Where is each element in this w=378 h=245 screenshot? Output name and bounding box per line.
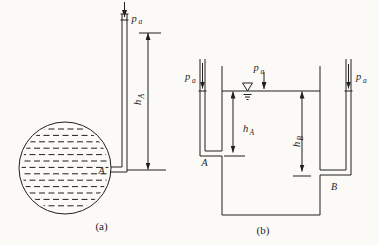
svg-text:B: B xyxy=(296,136,305,141)
point-B-label-b: B xyxy=(331,181,337,192)
svg-text:a: a xyxy=(139,17,143,26)
svg-text:p: p xyxy=(184,71,190,82)
svg-text:p: p xyxy=(253,62,259,73)
svg-text:a: a xyxy=(363,76,367,85)
caption-b: (b) xyxy=(257,224,270,237)
svg-text:a: a xyxy=(261,67,265,76)
svg-text:a: a xyxy=(192,76,196,85)
svg-text:A: A xyxy=(137,94,146,100)
svg-text:p: p xyxy=(355,71,361,82)
svg-text:A: A xyxy=(249,128,255,137)
figure-canvas: p a h A A (a) p a p a p a h A h B A xyxy=(0,0,378,245)
svg-text:p: p xyxy=(131,13,137,24)
point-A-label-b: A xyxy=(201,157,209,168)
svg-text:h: h xyxy=(291,142,302,147)
figure-diagram: p a h A A (a) p a p a p a h A h B A xyxy=(0,0,378,245)
point-A-label-a: A xyxy=(98,165,106,176)
caption-a: (a) xyxy=(95,220,108,233)
svg-text:h: h xyxy=(243,123,248,134)
svg-text:h: h xyxy=(132,100,143,105)
